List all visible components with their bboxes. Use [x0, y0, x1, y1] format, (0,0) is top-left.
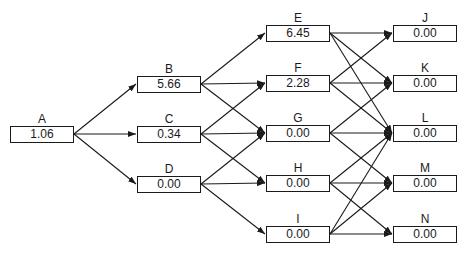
node-value-box: 0.00 [393, 226, 457, 243]
node-value-box: 0.00 [137, 176, 201, 193]
node-label: N [393, 213, 457, 225]
node-label: H [266, 162, 330, 174]
node-value-box: 0.00 [266, 175, 330, 192]
node-label: J [393, 12, 457, 24]
edge-a-d [74, 134, 136, 184]
edge-d-h [201, 183, 265, 184]
node-label: F [266, 62, 330, 74]
node-a: A 1.06 [10, 113, 74, 143]
node-value-box: 0.34 [137, 126, 201, 143]
node-k: K 0.00 [393, 62, 457, 92]
edge-a-b [74, 84, 136, 134]
node-value-box: 0.00 [266, 125, 330, 142]
edge-d-i [201, 184, 265, 234]
node-h: H 0.00 [266, 162, 330, 192]
node-label: C [137, 113, 201, 125]
node-f: F 2.28 [266, 62, 330, 92]
node-n: N 0.00 [393, 213, 457, 243]
node-value-box: 0.00 [393, 125, 457, 142]
node-label: L [393, 112, 457, 124]
edge-b-f [201, 83, 265, 84]
node-m: M 0.00 [393, 162, 457, 192]
node-value-box: 0.00 [393, 175, 457, 192]
node-e: E 6.45 [266, 12, 330, 42]
node-value-box: 6.45 [266, 25, 330, 42]
node-c: C 0.34 [137, 113, 201, 143]
node-value-box: 0.00 [393, 75, 457, 92]
node-g: G 0.00 [266, 112, 330, 142]
node-label: K [393, 62, 457, 74]
node-label: I [266, 213, 330, 225]
node-label: D [137, 163, 201, 175]
node-l: L 0.00 [393, 112, 457, 142]
layered-graph-diagram: A 1.06 B 5.66 C 0.34 D 0.00 E 6.45 F 2.2… [0, 0, 467, 253]
node-i: I 0.00 [266, 213, 330, 243]
node-value-box: 0.00 [266, 226, 330, 243]
node-label: A [10, 113, 74, 125]
node-label: M [393, 162, 457, 174]
node-value-box: 0.00 [393, 25, 457, 42]
edge-b-e [201, 33, 265, 84]
node-value-box: 1.06 [10, 126, 74, 143]
node-label: B [137, 63, 201, 75]
node-value-box: 5.66 [137, 76, 201, 93]
node-label: G [266, 112, 330, 124]
node-value-box: 2.28 [266, 75, 330, 92]
node-b: B 5.66 [137, 63, 201, 93]
node-label: E [266, 12, 330, 24]
edge-c-g [201, 133, 265, 134]
edge-d-g [201, 133, 265, 184]
edge-group [74, 33, 392, 234]
node-j: J 0.00 [393, 12, 457, 42]
node-d: D 0.00 [137, 163, 201, 193]
edge-c-f [201, 83, 265, 134]
